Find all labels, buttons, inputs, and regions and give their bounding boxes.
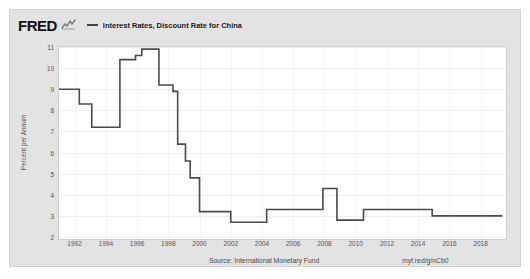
y-axis-title: Percent per Annum <box>18 46 30 238</box>
y-axis-tick-label: 9 <box>50 86 54 93</box>
legend: Interest Rates, Discount Rate for China <box>87 21 242 30</box>
x-axis-tick-label: 2004 <box>255 240 269 247</box>
fred-chart-card: FRED Interest Rates, Discount Rate for C… <box>10 10 520 266</box>
chart-footer: Source: International Monetary Fund myf.… <box>10 257 520 269</box>
short-url[interactable]: myf.red/g/nCb0 <box>402 257 448 264</box>
x-axis-tick-label: 1992 <box>67 240 81 247</box>
squiggle-icon <box>61 16 77 34</box>
series-line <box>59 49 502 222</box>
legend-series-label: Interest Rates, Discount Rate for China <box>103 21 242 30</box>
x-axis-tick-label: 2010 <box>348 240 362 247</box>
x-axis-tick-label: 2006 <box>286 240 300 247</box>
x-axis-tick-label: 2002 <box>224 240 238 247</box>
x-axis-tick-label: 1996 <box>130 240 144 247</box>
legend-line-marker-icon <box>87 24 98 26</box>
y-axis-title-text: Percent per Annum <box>21 114 28 170</box>
x-axis-tick-label: 1998 <box>161 240 175 247</box>
y-axis-tick-label: 10 <box>47 65 54 72</box>
plot-area <box>58 46 507 240</box>
series-line-chart <box>59 47 504 237</box>
x-axis-tick-labels: 1992199419961998200020022004200620082010… <box>58 240 505 252</box>
screenshot-root: FRED Interest Rates, Discount Rate for C… <box>0 0 530 279</box>
x-axis-tick-label: 1994 <box>99 240 113 247</box>
x-axis-tick-label: 2000 <box>192 240 206 247</box>
x-axis-tick-label: 2008 <box>317 240 331 247</box>
y-axis-tick-labels: 234567891011 <box>32 46 56 238</box>
y-axis-tick-label: 5 <box>50 170 54 177</box>
chart-header: FRED Interest Rates, Discount Rate for C… <box>18 17 242 33</box>
fred-logo[interactable]: FRED <box>18 18 57 33</box>
y-axis-tick-label: 7 <box>50 128 54 135</box>
y-axis-tick-label: 8 <box>50 107 54 114</box>
x-axis-tick-label: 2016 <box>442 240 456 247</box>
source-note: Source: International Monetary Fund <box>209 257 319 264</box>
gridline-horizontal <box>59 237 506 238</box>
y-axis-tick-label: 4 <box>50 191 54 198</box>
x-axis-tick-label: 2012 <box>380 240 394 247</box>
y-axis-tick-label: 3 <box>50 212 54 219</box>
y-axis-tick-label: 2 <box>50 234 54 241</box>
y-axis-tick-label: 11 <box>47 44 54 51</box>
y-axis-tick-label: 6 <box>50 149 54 156</box>
x-axis-tick-label: 2018 <box>473 240 487 247</box>
x-axis-tick-label: 2014 <box>411 240 425 247</box>
